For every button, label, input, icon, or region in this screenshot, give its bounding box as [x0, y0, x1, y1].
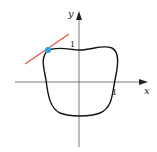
x-axis-label: x	[144, 85, 150, 96]
diagram-figure: y x 1 1	[0, 0, 157, 152]
y-tick-label: 1	[70, 40, 75, 49]
tangent-point	[45, 47, 51, 53]
y-axis-label: y	[67, 8, 74, 19]
plot-canvas: y x 1 1	[0, 0, 157, 152]
closed-curve	[43, 47, 117, 116]
y-axis-arrow-icon	[76, 11, 82, 20]
x-tick-label: 1	[112, 88, 117, 97]
